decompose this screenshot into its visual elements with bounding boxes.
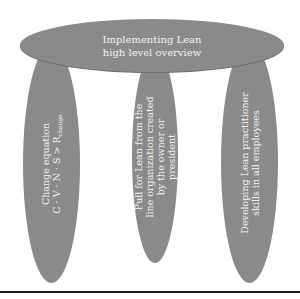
change-equation-formula: C · V · N · S > R bbox=[50, 136, 61, 213]
change-equation-subscript: change bbox=[55, 114, 62, 136]
pillar-left-line-2: C · V · N · S > Rchange bbox=[50, 114, 64, 213]
roof-title: Implementing Lean high level overview bbox=[20, 33, 284, 59]
pillar-middle-line-4: president bbox=[166, 96, 177, 217]
pillar-middle-line-2: line organization created bbox=[144, 96, 155, 217]
pillar-middle-line-1: Pull for Lean from the bbox=[133, 96, 144, 217]
pillar-right-line-2: skills in all employees bbox=[250, 92, 261, 233]
roof-ellipse: Implementing Lean high level overview bbox=[20, 19, 284, 72]
pillar-developing-skills: Developing Lean practitioner skills in a… bbox=[221, 42, 278, 283]
pillar-pull-for-lean: Pull for Lean from the line organization… bbox=[132, 50, 178, 263]
pillar-left-line-1: Change equation bbox=[39, 114, 50, 213]
ground-baseline bbox=[0, 291, 300, 293]
pillar-change-equation: Change equation C · V · N · S > Rchange bbox=[23, 45, 80, 283]
lean-house-diagram: Change equation C · V · N · S > Rchange … bbox=[0, 0, 300, 299]
roof-line-2: high level overview bbox=[20, 46, 284, 59]
pillar-pull-for-lean-text: Pull for Lean from the line organization… bbox=[133, 96, 177, 217]
pillar-developing-skills-text: Developing Lean practitioner skills in a… bbox=[239, 92, 261, 233]
pillar-change-equation-text: Change equation C · V · N · S > Rchange bbox=[39, 114, 64, 213]
pillar-middle-line-3: by the owner or bbox=[155, 96, 166, 217]
roof-line-1: Implementing Lean bbox=[20, 33, 284, 46]
pillar-right-line-1: Developing Lean practitioner bbox=[239, 92, 250, 233]
